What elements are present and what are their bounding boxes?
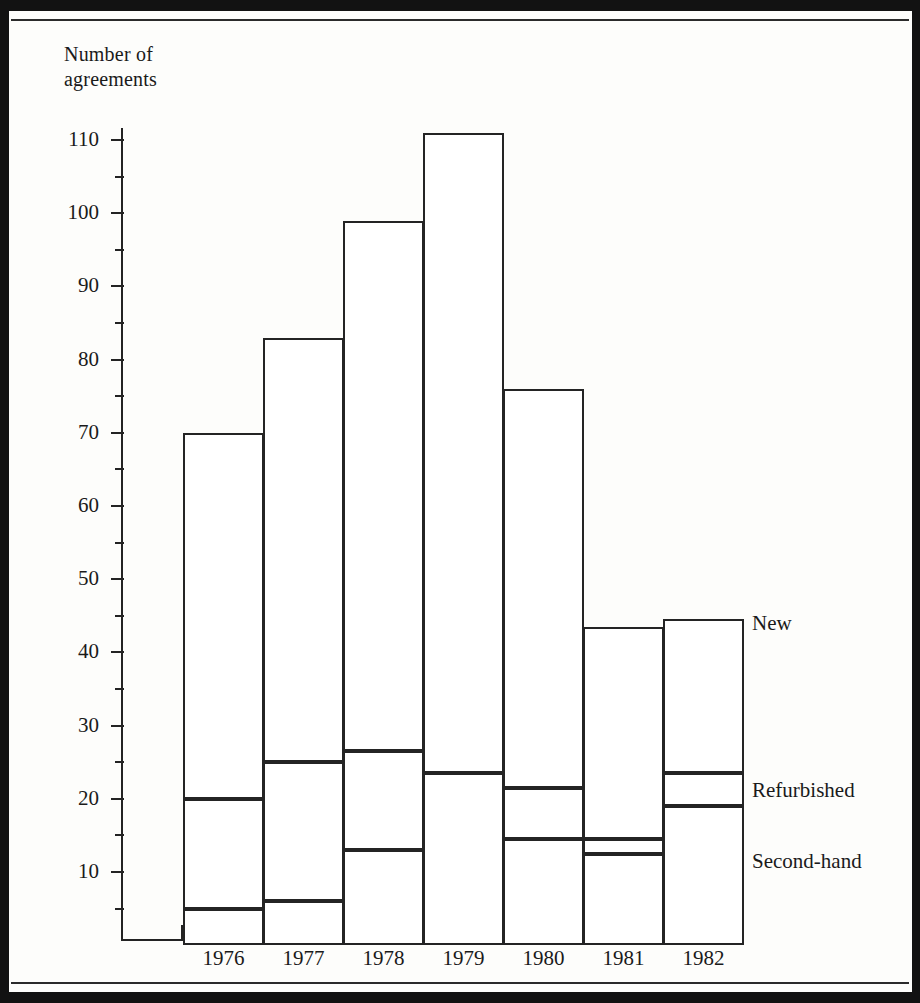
legend-label-second-hand: Second-hand [752,850,862,873]
y-tick-minor [115,322,124,324]
bar-1979[interactable] [423,133,504,940]
y-tick-major [111,505,124,507]
y-tick-label: 70 [43,422,99,443]
y-tick-label: 10 [43,861,99,882]
y-tick-major [111,798,124,800]
y-axis-title: Number of agreements [64,42,157,92]
y-tick-label: 20 [43,788,99,809]
y-tick-label: 40 [43,641,99,662]
x-tick-label-1978: 1978 [341,947,427,970]
bar-1976[interactable] [183,433,264,940]
y-tick-label: 30 [43,715,99,736]
y-tick-major [111,578,124,580]
stacked-bar-chart: Number of agreements 1020304050607080901… [0,0,920,1003]
y-tick-minor [115,615,124,617]
y-tick-major [111,725,124,727]
y-tick-major [111,139,124,141]
y-tick-major [111,651,124,653]
x-tick-label-1980: 1980 [501,947,587,970]
y-tick-label: 90 [43,275,99,296]
x-tick-label-1979: 1979 [421,947,507,970]
legend-label-refurbished: Refurbished [752,779,855,802]
y-tick-major [111,432,124,434]
y-tick-minor [115,542,124,544]
legend-label-new: New [752,612,792,635]
y-tick-major [111,871,124,873]
y-tick-minor [115,249,124,251]
y-tick-minor [115,834,124,836]
y-tick-major [111,359,124,361]
y-tick-label: 60 [43,495,99,516]
y-tick-minor [115,468,124,470]
y-tick-label: 100 [43,202,99,223]
y-tick-minor [115,908,124,910]
y-tick-minor [115,688,124,690]
y-tick-major [111,285,124,287]
x-tick-label-1976: 1976 [181,947,267,970]
bar-1977[interactable] [263,338,344,940]
x-tick-label-1982: 1982 [661,947,747,970]
bar-1982[interactable] [663,619,744,940]
y-tick-minor [115,395,124,397]
y-tick-label: 110 [43,129,99,150]
x-tick-label-1981: 1981 [581,947,667,970]
y-tick-major [111,212,124,214]
y-tick-minor [115,761,124,763]
bar-1981[interactable] [583,627,664,940]
x-tick-label-1977: 1977 [261,947,347,970]
bar-1978[interactable] [343,221,424,940]
y-tick-minor [115,176,124,178]
scanned-page: Number of agreements 1020304050607080901… [0,0,920,1003]
y-tick-label: 50 [43,568,99,589]
y-tick-label: 80 [43,349,99,370]
bar-1980[interactable] [503,389,584,940]
